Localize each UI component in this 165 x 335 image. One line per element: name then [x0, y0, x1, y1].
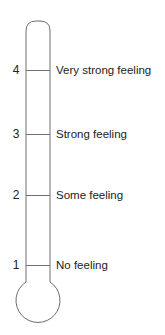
level-1-label: No feeling [56, 258, 108, 272]
thermometer-tube-and-bulb [16, 21, 60, 322]
level-3-label: Strong feeling [56, 127, 127, 141]
level-2-label: Some feeling [56, 188, 123, 202]
thermometer-outline [0, 0, 165, 335]
level-4-number: 4 [10, 63, 22, 77]
level-4-label: Very strong feeling [56, 63, 151, 77]
level-2-number: 2 [10, 188, 22, 202]
level-3-number: 3 [10, 127, 22, 141]
level-1-number: 1 [10, 258, 22, 272]
